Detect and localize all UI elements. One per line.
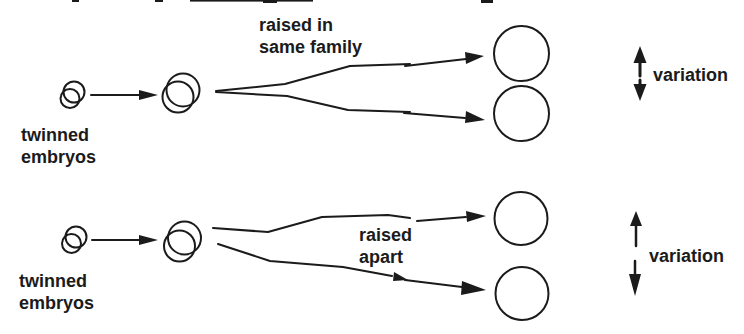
- condition-label-top-line2: same family: [259, 36, 362, 58]
- diagram-line-art: [0, 0, 744, 334]
- variation-arrow-icon-top: [634, 46, 647, 101]
- development-arrow-icon-top: [91, 90, 158, 100]
- outcome-arrow-top-upper: [405, 52, 484, 66]
- outcome-arrow-bottom-upper: [417, 211, 486, 222]
- source-label-top-line2: embryos: [21, 146, 96, 168]
- bottom-panel-art: [62, 192, 642, 320]
- adult-twin-circle-top-upper: [494, 26, 549, 81]
- condition-label-bottom: raised apart: [359, 224, 412, 268]
- condition-label-top-line1: raised in: [259, 14, 362, 36]
- outcome-arrow-bottom-lower: [405, 280, 486, 295]
- variation-label-bottom: variation: [649, 245, 724, 267]
- twinned-embryos-icon-top: [61, 82, 85, 109]
- adult-twin-circle-top-lower: [494, 86, 549, 141]
- source-label-top: twinned embryos: [21, 124, 96, 168]
- separated-embryos-icon-top: [163, 74, 200, 113]
- cropped-edge-artifacts: [72, 0, 493, 3]
- source-label-top-line1: twinned: [21, 124, 96, 146]
- outcome-arrow-top-lower: [404, 111, 485, 123]
- condition-label-bottom-line2: apart: [359, 246, 412, 268]
- variation-label-top: variation: [653, 64, 728, 86]
- adult-twin-circle-bottom-lower: [496, 267, 549, 320]
- development-arrow-icon-bottom: [92, 235, 158, 245]
- source-label-bottom-line1: twinned: [19, 270, 94, 292]
- separated-embryos-icon-bottom: [164, 222, 201, 262]
- variation-arrow-icon-bottom: [629, 211, 642, 296]
- condition-label-top: raised in same family: [259, 14, 362, 58]
- twinned-embryos-icon-bottom: [62, 227, 87, 254]
- twin-study-diagram: twinned embryos raised in same family va…: [0, 0, 744, 334]
- adult-twin-circle-bottom-upper: [495, 192, 548, 245]
- source-label-bottom: twinned embryos: [19, 270, 94, 314]
- source-label-bottom-line2: embryos: [19, 292, 94, 314]
- split-path-top: [216, 64, 410, 112]
- condition-label-bottom-line1: raised: [359, 224, 412, 246]
